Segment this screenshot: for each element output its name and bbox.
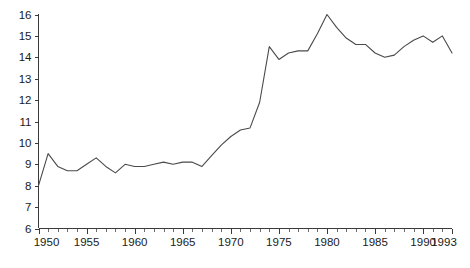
- x-axis-tick-label: 1980: [314, 236, 340, 248]
- y-axis-tick-label: 13: [19, 73, 32, 85]
- y-axis-group: [35, 16, 39, 230]
- y-axis-tick-label: 12: [19, 94, 32, 106]
- x-axis-group: [40, 229, 453, 234]
- x-tick-labels-group: 1950195519601965197019751980198519901993: [34, 236, 457, 248]
- x-axis-tick-label: 1993: [431, 236, 457, 248]
- y-axis-tick-label: 11: [20, 116, 32, 128]
- x-axis-tick-label: 1955: [74, 236, 100, 248]
- y-tick-labels-group: 678910111213141516: [19, 9, 32, 235]
- y-axis-tick-label: 8: [25, 180, 31, 192]
- y-axis-tick-label: 6: [25, 223, 31, 235]
- data-series-line: [39, 15, 453, 186]
- x-axis-tick-label: 1965: [170, 236, 196, 248]
- y-axis-tick-label: 9: [25, 158, 31, 170]
- x-axis-tick-label: 1960: [122, 236, 148, 248]
- y-axis-tick-label: 7: [25, 201, 31, 213]
- y-axis-tick-label: 16: [19, 9, 32, 21]
- line-chart: 678910111213141516 195019551960196519701…: [0, 0, 470, 268]
- x-axis-tick-label: 1985: [362, 236, 388, 248]
- x-axis-tick-label: 1950: [34, 236, 60, 248]
- y-axis-tick-label: 14: [19, 51, 32, 63]
- x-axis-tick-label: 1975: [266, 236, 292, 248]
- x-axis-tick-label: 1970: [218, 236, 244, 248]
- y-axis-tick-label: 15: [19, 30, 32, 42]
- y-axis-tick-label: 10: [19, 137, 32, 149]
- chart-plot-area: 678910111213141516 195019551960196519701…: [0, 0, 470, 268]
